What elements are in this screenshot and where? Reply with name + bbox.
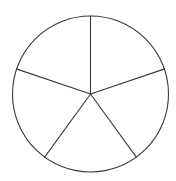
figure-root	[0, 0, 176, 181]
pie-chart-svg	[0, 0, 176, 181]
